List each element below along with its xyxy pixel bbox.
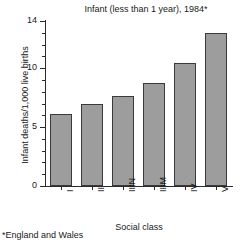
tick-mark xyxy=(42,162,45,163)
x-tick-mark xyxy=(123,186,124,190)
tick-mark xyxy=(42,139,45,140)
x-tick-label: II xyxy=(96,158,106,192)
x-tick-mark xyxy=(61,186,62,190)
y-tick-label: 10 xyxy=(15,62,37,73)
x-tick-mark xyxy=(185,186,186,190)
chart-figure: Infant (less than 1 year), 1984* Infant … xyxy=(0,0,244,244)
tick-mark xyxy=(40,68,45,69)
chart-title: Infant (less than 1 year), 1984* xyxy=(48,4,244,15)
tick-mark xyxy=(42,92,45,93)
y-axis-label: Infant deaths/1,000 live births xyxy=(20,25,30,185)
x-tick-label: I xyxy=(65,158,75,192)
tick-mark xyxy=(42,115,45,116)
y-tick-label: 14 xyxy=(15,15,37,26)
tick-mark xyxy=(42,80,45,81)
x-tick-mark xyxy=(216,186,217,190)
x-tick-label: IIIM xyxy=(158,158,168,192)
y-tick-label: 0 xyxy=(15,180,37,191)
tick-mark xyxy=(40,127,45,128)
tick-mark xyxy=(42,33,45,34)
tick-mark xyxy=(42,151,45,152)
tick-mark xyxy=(42,45,45,46)
x-tick-mark xyxy=(92,186,93,190)
x-tick-mark xyxy=(154,186,155,190)
x-tick-label: V xyxy=(220,158,230,192)
x-tick-label: IV xyxy=(189,158,199,192)
y-tick-label: 5 xyxy=(15,121,37,132)
x-tick-label: IIIN xyxy=(127,158,137,192)
tick-mark xyxy=(40,21,45,22)
tick-mark xyxy=(42,104,45,105)
tick-mark xyxy=(42,174,45,175)
tick-mark xyxy=(40,186,45,187)
tick-mark xyxy=(42,56,45,57)
chart-footnote: *England and Wales xyxy=(2,230,83,241)
